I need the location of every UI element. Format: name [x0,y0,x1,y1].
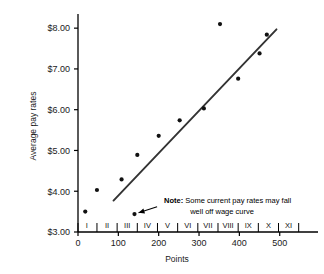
x-axis-tick-label: 500 [272,238,287,248]
data-point [265,33,269,37]
grade-label: II [105,221,109,230]
x-axis-title: Points [165,254,189,264]
y-axis-tick-label: $3.00 [47,227,70,237]
data-point [132,212,136,216]
data-point [178,118,182,122]
data-point [83,210,87,214]
note-label: Note: [164,196,183,205]
grade-label: VI [184,221,191,230]
y-axis-tick-label: $7.00 [47,64,70,74]
data-point [135,153,139,157]
x-axis-tick-label: 100 [111,238,126,248]
data-point [157,134,161,138]
data-point [236,77,240,81]
x-axis-tick-label: 400 [232,238,247,248]
data-point [95,188,99,192]
note-text-1: Some current pay rates may fall [183,196,291,205]
data-point [257,51,261,55]
grade-label: VIII [222,221,233,230]
grade-label: VII [203,221,212,230]
chart-canvas: $3.00$4.00$5.00$6.00$7.00$8.00 010020030… [0,0,324,274]
grade-label: XI [285,221,292,230]
note-line-2: well off wage curve [189,207,254,216]
y-axis-title: Average pay rates [28,92,38,161]
y-axis-tick-label: $4.00 [47,187,70,197]
y-axis-tick-label: $5.00 [47,146,70,156]
data-point [218,22,222,26]
note-line-1: Note: Some current pay rates may fall [164,196,291,205]
grade-label: X [266,221,271,230]
y-axis-tick-label: $8.00 [47,23,70,33]
grade-label: V [165,221,170,230]
grade-label: IV [144,221,151,230]
wage-curve-chart: $3.00$4.00$5.00$6.00$7.00$8.00 010020030… [0,0,324,274]
grade-label: IX [245,221,252,230]
grade-label: I [86,221,88,230]
data-point [202,106,206,110]
y-axis-tick-label: $6.00 [47,105,70,115]
grade-label: III [124,221,130,230]
x-axis-tick-label: 0 [75,238,80,248]
data-point [119,177,123,181]
x-axis-tick-label: 200 [151,238,166,248]
x-axis-tick-label: 300 [192,238,207,248]
